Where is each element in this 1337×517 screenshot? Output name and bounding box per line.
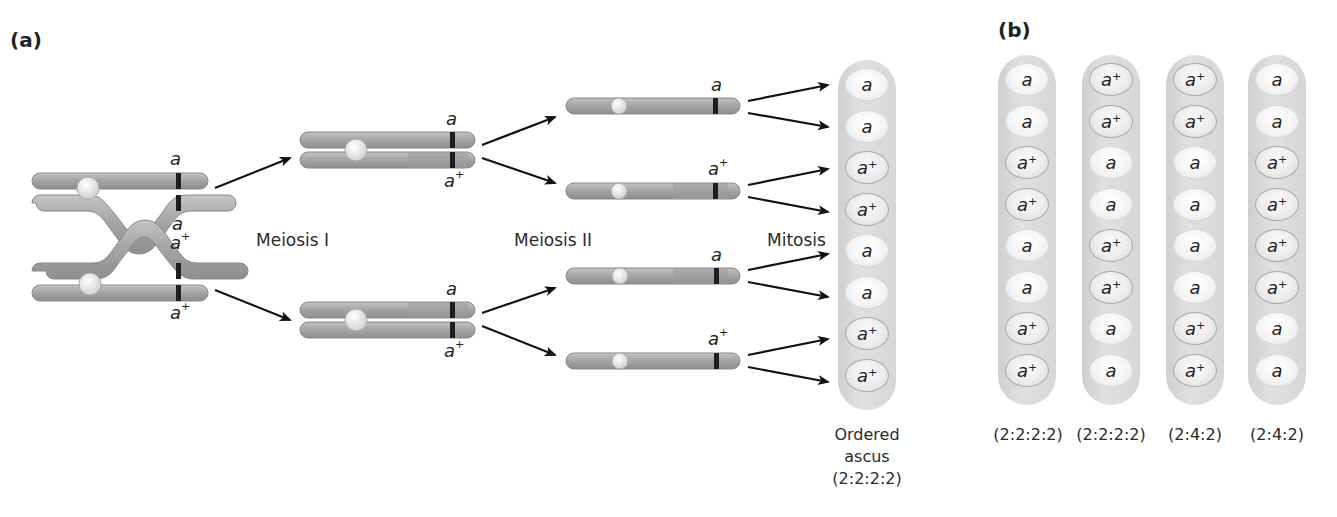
spore-a: a — [1173, 271, 1217, 304]
spore-a: a — [1173, 229, 1217, 262]
ordered-ascus-a: aaa+a+aaa+a+ — [838, 60, 896, 410]
spore-a-plus: a+ — [1173, 354, 1217, 387]
chromatid-2 — [566, 183, 740, 199]
stage-mitosis: Mitosis — [767, 230, 826, 250]
spore-a: a — [1255, 354, 1299, 387]
spore-a-plus: a+ — [845, 317, 889, 350]
spore-a: a — [845, 68, 889, 101]
allele-start-bottom: a+ — [170, 302, 190, 323]
ascus-b-4-caption: (2:4:2) — [1236, 424, 1318, 446]
spore-a: a — [1255, 63, 1299, 96]
spore-a: a — [845, 276, 889, 309]
spore-a-plus: a+ — [845, 193, 889, 226]
allele-start-cross-lower: a+ — [170, 232, 190, 253]
spore-a-plus: a+ — [1173, 312, 1217, 345]
allele-m1-bottom-lower: a+ — [444, 340, 464, 361]
stage-meiosis-1: Meiosis I — [256, 230, 329, 250]
spore-a-plus: a+ — [1089, 229, 1133, 262]
spore-a-plus: a+ — [1005, 354, 1049, 387]
spore-a: a — [1173, 146, 1217, 179]
spore-a: a — [1089, 146, 1133, 179]
spore-a-plus: a+ — [1005, 188, 1049, 221]
ascus-b-2-caption: (2:2:2:2) — [1070, 424, 1152, 446]
spore-a-plus: a+ — [1089, 63, 1133, 96]
spore-a: a — [1255, 105, 1299, 138]
spore-a-plus: a+ — [1255, 146, 1299, 179]
spore-a-plus: a+ — [1005, 146, 1049, 179]
chromatid-4 — [566, 353, 740, 369]
spore-a: a — [1089, 188, 1133, 221]
chromatid-1 — [566, 98, 740, 114]
ascus-b-3: a+a+aaaaa+a+ — [1166, 55, 1224, 405]
spore-a: a — [1005, 271, 1049, 304]
ascus-b-2: a+a+aaa+a+aa — [1082, 55, 1140, 405]
chromatid-3 — [566, 268, 740, 284]
spore-a: a — [1005, 63, 1049, 96]
allele-m1-top-upper: a — [446, 108, 457, 129]
spore-a-plus: a+ — [1173, 63, 1217, 96]
dyad-bottom — [300, 302, 475, 338]
ascus-b-1: aaa+a+aaa+a+ — [998, 55, 1056, 405]
ascus-b-3-caption: (2:4:2) — [1154, 424, 1236, 446]
allele-m1-bottom-upper: a — [446, 278, 457, 299]
allele-m2-2: a+ — [708, 158, 728, 179]
allele-start-top: a — [170, 148, 181, 169]
allele-m2-4: a+ — [708, 328, 728, 349]
spore-a-plus: a+ — [1089, 271, 1133, 304]
allele-m2-1: a — [711, 74, 722, 95]
ascus-b-4: aaa+a+a+a+aa — [1248, 55, 1306, 405]
spore-a-plus: a+ — [845, 151, 889, 184]
stage-meiosis-2: Meiosis II — [514, 230, 592, 250]
spore-a: a — [1089, 354, 1133, 387]
allele-m1-top-lower: a+ — [444, 170, 464, 191]
spore-a: a — [1005, 229, 1049, 262]
spore-a: a — [845, 110, 889, 143]
spore-a-plus: a+ — [1089, 105, 1133, 138]
spore-a-plus: a+ — [1255, 188, 1299, 221]
ascus-b-1-caption: (2:2:2:2) — [987, 424, 1069, 446]
dyad-top — [300, 132, 475, 168]
spore-a-plus: a+ — [1255, 271, 1299, 304]
spore-a: a — [1089, 312, 1133, 345]
spore-a-plus: a+ — [845, 359, 889, 392]
spore-a-plus: a+ — [1255, 229, 1299, 262]
bivalent-start — [32, 173, 248, 301]
spore-a-plus: a+ — [1173, 105, 1217, 138]
allele-m2-3: a — [711, 244, 722, 265]
spore-a: a — [1173, 188, 1217, 221]
spore-a: a — [1005, 105, 1049, 138]
ascus-a-caption: Ordered ascus (2:2:2:2) — [800, 424, 934, 490]
spore-a: a — [845, 234, 889, 267]
spore-a: a — [1255, 312, 1299, 345]
spore-a-plus: a+ — [1005, 312, 1049, 345]
